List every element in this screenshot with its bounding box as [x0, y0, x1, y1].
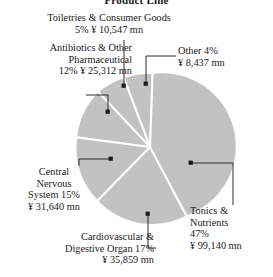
- slice-label-toiletries-line1: Toiletries & Consumer Goods: [14, 12, 204, 24]
- slice-label-antibiotics-line2: Pharmaceutical: [2, 54, 132, 66]
- leader-dot-tonics: [189, 161, 193, 165]
- slice-label-tonics-line4: ¥ 99,140 mn: [190, 240, 272, 252]
- slice-label-toiletries: Toiletries & Consumer Goods 5% ¥ 10,547 …: [14, 12, 204, 35]
- pie-chart-figure: Product Line: [0, 0, 273, 277]
- slice-label-cardio-line2: Digestive Organ 17%: [6, 243, 154, 255]
- slice-label-antibiotics-line1: Antibiotics & Other: [2, 42, 132, 54]
- slice-label-cns-line1: Central: [12, 166, 96, 178]
- leader-dot-antibiotics: [106, 110, 110, 114]
- slice-label-other: Other 4% ¥ 8,437 mn: [178, 45, 270, 68]
- pie-slices: [76, 73, 235, 224]
- slice-label-tonics-line3: 47%: [190, 228, 272, 240]
- slice-label-other-line1: Other 4%: [178, 45, 270, 57]
- slice-label-antibiotics: Antibiotics & Other Pharmaceutical 12% ¥…: [2, 42, 132, 77]
- slice-label-tonics-line2: Nutrients: [190, 217, 272, 229]
- leader-dot-other: [144, 82, 148, 86]
- slice-label-cns-line2: Nervous: [12, 178, 96, 190]
- slice-label-cardio-line3: ¥ 35,859 mn: [6, 254, 154, 266]
- leader-dot-cns: [109, 157, 113, 161]
- slice-label-cardiovascular: Cardiovascular & Digestive Organ 17% ¥ 3…: [6, 231, 154, 266]
- slice-label-tonics-line1: Tonics &: [190, 205, 272, 217]
- slice-label-cns-line4: ¥ 31,640 mn: [12, 201, 96, 213]
- slice-label-central-nervous: Central Nervous System 15% ¥ 31,640 mn: [12, 166, 96, 212]
- slice-label-cns-line3: System 15%: [12, 189, 96, 201]
- slice-label-tonics: Tonics & Nutrients 47% ¥ 99,140 mn: [190, 205, 272, 251]
- slice-label-toiletries-line2: 5% ¥ 10,547 mn: [14, 24, 204, 36]
- leader-dot-cardiovascular: [146, 212, 150, 216]
- slice-label-antibiotics-line3: 12% ¥ 25,312 mn: [2, 65, 132, 77]
- slice-label-other-line2: ¥ 8,437 mn: [178, 57, 270, 69]
- slice-label-cardio-line1: Cardiovascular &: [6, 231, 154, 243]
- leader-dot-toiletries: [122, 84, 126, 88]
